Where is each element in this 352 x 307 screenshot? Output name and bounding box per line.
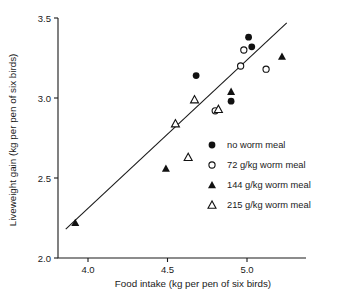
series-1 [212, 47, 269, 114]
series-0 [193, 34, 255, 105]
plot-axes [58, 18, 306, 258]
point-2-1 [162, 164, 170, 171]
legend-label-2: 144 g/kg worm meal [227, 180, 311, 190]
x-axis-tick-labels: 4.04.55.0 [81, 264, 253, 275]
axis-spine [58, 18, 306, 258]
point-0-0 [193, 72, 200, 79]
point-0-3 [248, 43, 255, 50]
legend-item-2: 144 g/kg worm meal [208, 180, 311, 190]
legend-marker-filled-circle [209, 142, 216, 149]
legend-marker-filled-triangle [208, 181, 216, 188]
legend-label-3: 215 g/kg worm meal [227, 200, 311, 210]
plot-canvas: 4.04.55.0 2.02.53.03.5 Food intake (kg p… [0, 0, 352, 307]
legend-item-1: 72 g/kg worm meal [209, 160, 306, 170]
legend-marker-open-circle [209, 162, 215, 168]
legend-marker-open-triangle [208, 201, 216, 208]
point-2-3 [278, 52, 286, 59]
y-axis-label: Liveweight gain (kg per pen of six birds… [7, 54, 18, 227]
y-tick-label-2: 3.0 [38, 93, 51, 104]
point-0-1 [228, 98, 235, 105]
legend: no worm meal72 g/kg worm meal144 g/kg wo… [208, 140, 311, 210]
point-3-1 [184, 153, 192, 160]
data-points [71, 34, 286, 226]
point-0-2 [245, 34, 252, 41]
x-tick-label-2: 5.0 [240, 264, 253, 275]
y-tick-label-1: 2.5 [38, 173, 51, 184]
x-axis-label: Food intake (kg per pen of six birds) [115, 278, 271, 289]
legend-label-1: 72 g/kg worm meal [227, 160, 306, 170]
scatter-plot-figure: 4.04.55.0 2.02.53.03.5 Food intake (kg p… [0, 0, 352, 307]
axis-ticks [54, 18, 247, 262]
x-tick-label-1: 4.5 [161, 264, 174, 275]
y-axis-tick-labels: 2.02.53.03.5 [38, 13, 51, 264]
y-tick-label-0: 2.0 [38, 253, 51, 264]
point-1-2 [241, 47, 247, 53]
y-tick-label-3: 3.5 [38, 13, 51, 24]
legend-label-0: no worm meal [227, 140, 285, 150]
point-2-2 [227, 88, 235, 95]
point-3-0 [171, 120, 179, 127]
series-3 [171, 96, 222, 161]
point-1-1 [238, 63, 244, 69]
legend-item-0: no worm meal [209, 140, 286, 150]
x-tick-label-0: 4.0 [81, 264, 94, 275]
legend-item-3: 215 g/kg worm meal [208, 200, 311, 210]
point-1-3 [263, 66, 269, 72]
point-3-2 [191, 96, 199, 103]
